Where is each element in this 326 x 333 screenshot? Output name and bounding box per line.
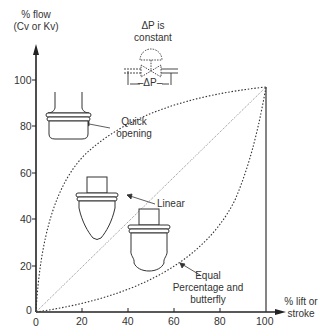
dp-constant-label: ΔP is constant [128,20,178,44]
x-tick-60: 60 [168,315,180,327]
eq-line3: butterfly [168,294,248,306]
quick-line2: opening [112,128,156,140]
x-tick-80: 80 [214,315,226,327]
dp-small-label: –ΔP– [132,77,168,89]
dp-line2: constant [128,32,178,44]
quick-opening-plug-icon [46,92,91,139]
y-axis-arrow-icon [33,44,39,55]
x-axis-label-line1: % lift or [276,296,326,308]
chart-canvas [0,0,326,333]
equal-arrow-icon [180,263,185,268]
y-axis-label-line2: (Cv or Kv) [6,21,66,33]
x-tick-20: 20 [76,315,88,327]
quick-opening-label: Quick opening [112,116,156,140]
x-tick-40: 40 [122,315,134,327]
equal-percentage-label: Equal Percentage and butterfly [168,270,248,306]
y-axis-label-line1: % flow [6,9,66,21]
linear-label: Linear [157,198,185,210]
y-axis-label: % flow (Cv or Kv) [6,9,66,33]
x-tick-0: 0 [33,316,39,328]
y-tick-0: 0 [26,304,32,316]
eq-line2: Percentage and [168,282,248,294]
dp-line1: ΔP is [128,20,178,32]
y-tick-100: 100 [14,74,32,86]
y-tick-20: 20 [20,260,32,272]
y-tick-40: 40 [20,213,32,225]
quick-line1: Quick [112,116,156,128]
linear-plug-icon [76,177,118,240]
x-axis-label-line2: stroke [276,308,326,320]
linear-arrow-icon [127,194,132,199]
equal-percentage-plug-icon [128,209,170,271]
y-tick-80: 80 [20,120,32,132]
x-axis-label: % lift or stroke [276,296,326,320]
x-tick-100: 100 [256,315,274,327]
y-tick-60: 60 [20,167,32,179]
eq-line1: Equal [168,270,248,282]
